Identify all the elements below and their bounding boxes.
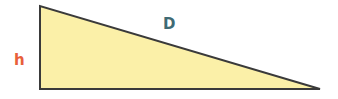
height-label: h [14, 51, 25, 69]
hypotenuse-label: D [163, 15, 175, 33]
triangle-diagram: h D [0, 0, 338, 99]
right-triangle [40, 6, 320, 89]
